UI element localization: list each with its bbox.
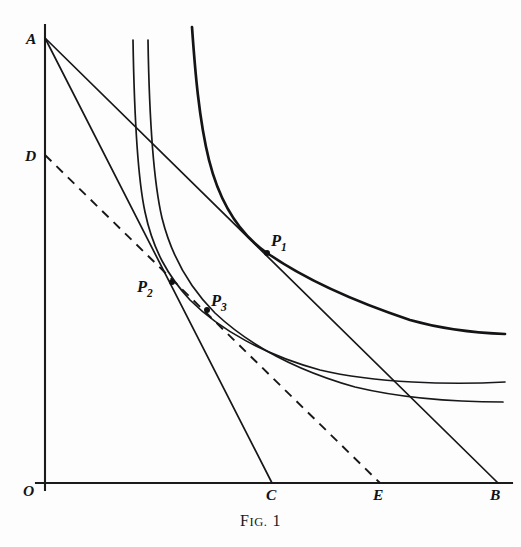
caption-number: 1 <box>273 512 282 529</box>
figure-drawing: A D O C E B P1 P2 P3 <box>0 0 521 547</box>
budget-line-AC <box>45 38 272 483</box>
point-dot-p2 <box>169 279 175 285</box>
axis-label-o: O <box>23 482 34 499</box>
caption-smallcaps: IG. <box>249 515 267 529</box>
point-dot-p1 <box>264 250 270 256</box>
point-label-p1-subscript: 1 <box>281 241 287 253</box>
caption-first-letter: F <box>240 512 250 529</box>
axis-label-d: D <box>24 147 36 164</box>
figure-container: A D O C E B P1 P2 P3 FIG.1 <box>0 0 521 547</box>
axis-labels-group: A D O C E B <box>23 30 500 503</box>
point-labels-group: P1 P2 P3 <box>136 231 287 313</box>
indifference-curve-2 <box>133 40 505 383</box>
point-dot-p3 <box>204 307 210 313</box>
indifference-curve-1 <box>192 27 505 334</box>
point-label-p3-subscript: 3 <box>220 301 227 313</box>
figure-caption: FIG.1 <box>0 512 521 530</box>
axis-label-c: C <box>266 486 277 503</box>
indifference-curve-3 <box>148 40 503 402</box>
point-label-p3: P3 <box>210 291 227 313</box>
indifference-curves-group <box>133 27 505 402</box>
point-label-p1: P1 <box>270 231 287 253</box>
axis-label-b: B <box>489 486 500 503</box>
point-label-p2: P2 <box>136 277 153 299</box>
budget-line-AB <box>45 38 498 483</box>
point-label-p2-subscript: 2 <box>146 287 153 299</box>
axis-label-a: A <box>25 30 36 47</box>
budget-lines-group <box>45 38 498 483</box>
axis-label-e: E <box>372 486 383 503</box>
